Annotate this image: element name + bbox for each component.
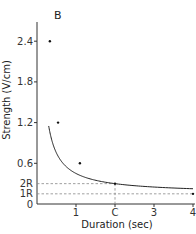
y-tick-label: 1R [20,188,33,199]
y-tick-label: 0 [27,199,33,210]
data-point [57,121,59,123]
reference-lines [37,184,193,204]
x-tick-label: C [112,207,119,218]
y-axis-ticks: 01R2R0.61.21.82.4 [17,36,37,210]
data-point [114,182,116,184]
data-point [192,193,194,195]
y-tick-label: 2R [20,178,33,189]
data-point [79,162,81,164]
y-tick-label: 1.2 [17,117,33,128]
y-tick-label: 0.6 [17,158,33,169]
x-tick-label: 4 [190,207,196,218]
curve-line [49,126,193,189]
panel-label: B [54,9,62,22]
x-axis-title: Duration (sec) [81,219,152,230]
data-curve [49,40,195,195]
y-axis-title: Strength (V/cm) [1,60,12,140]
y-tick-label: 2.4 [17,36,33,47]
x-tick-label: 1 [73,207,79,218]
axes [37,22,195,204]
strength-duration-chart: B 01R2R0.61.21.82.4 1C34 Duration (sec) … [0,0,196,234]
x-tick-label: 3 [151,207,157,218]
data-point [49,40,51,42]
x-axis-ticks: 1C34 [73,204,196,218]
y-tick-label: 1.8 [17,76,33,87]
